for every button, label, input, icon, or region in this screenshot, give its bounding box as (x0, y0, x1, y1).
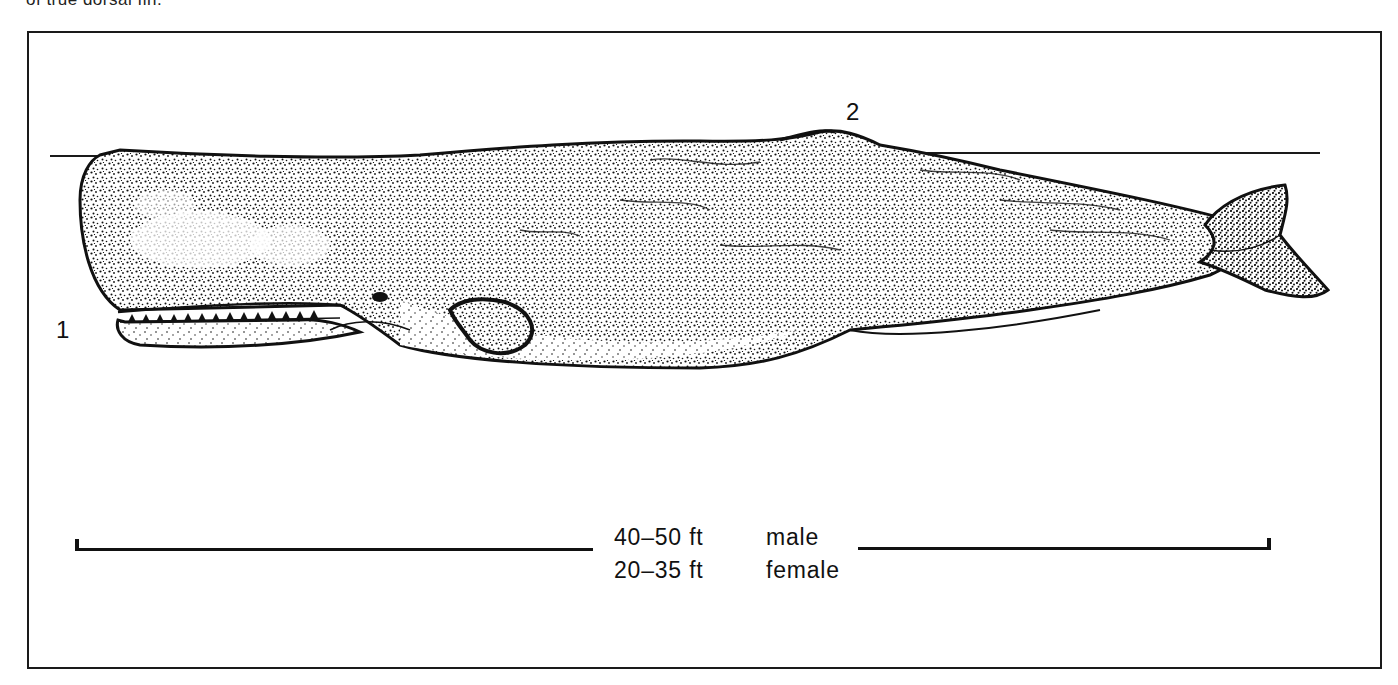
tail-fluke (1200, 185, 1328, 297)
male-label: male (766, 524, 819, 551)
label-1-head: 1 (56, 316, 69, 344)
male-length: 40–50 ft (614, 524, 704, 551)
label-2-dorsal-hump: 2 (846, 98, 859, 126)
scale-bar-right (858, 547, 1271, 550)
female-label: female (766, 557, 840, 584)
scale-bar-right-tick (1267, 538, 1271, 548)
female-length: 20–35 ft (614, 557, 704, 584)
lower-jaw (117, 320, 360, 347)
scale-bar-left (75, 548, 593, 551)
